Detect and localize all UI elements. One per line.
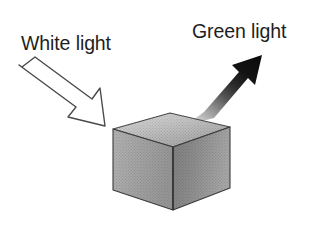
cube-object [113,113,230,210]
green-light-arrow [186,55,262,125]
white-light-arrow [19,57,105,126]
green-light-label: Green light [192,22,286,42]
white-light-label: White light [21,34,111,54]
light-reflection-diagram: White light Green light [0,0,315,227]
